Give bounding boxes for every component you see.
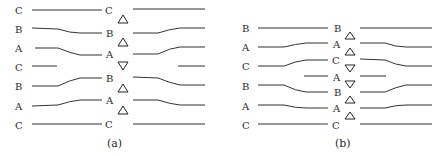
panel-a-layer-line [133, 77, 205, 85]
panel-b-center-label: C [332, 55, 340, 66]
panel-a-layer-line [133, 28, 205, 33]
panel-b-center-label: B [334, 87, 341, 98]
panel-b-left-label: C [242, 61, 250, 72]
panel-a-center-label: C [105, 5, 113, 16]
panel-a-left-label: B [15, 81, 22, 92]
panel-a-left-label: A [14, 101, 23, 112]
triangle-down-icon [345, 81, 355, 88]
triangle-up-icon [118, 38, 128, 46]
panel-b-center-label: C [332, 120, 340, 131]
stacking-sequence-figure: C B A C B A C C B A B A C (a [0, 0, 445, 156]
panel-a-center-label: B [106, 28, 113, 39]
triangle-up-icon [118, 15, 128, 23]
triangle-up-icon [118, 84, 128, 92]
panel-a-center-label: A [105, 49, 114, 60]
panel-a-left-label: C [15, 62, 23, 73]
panel-b-center-label: A [332, 103, 341, 114]
panel-a-caption: (a) [107, 137, 122, 150]
panel-b-left-label: A [241, 42, 250, 53]
triangle-up-icon [345, 112, 355, 119]
panel-b-layer-line [360, 105, 432, 108]
panel-a-left-label: C [15, 5, 23, 16]
triangle-up-icon [345, 48, 355, 55]
panel-b-center-label: A [332, 72, 341, 83]
panel-a-left-label: A [14, 43, 23, 54]
triangle-up-icon [118, 106, 128, 114]
panel-b-left-label: B [242, 23, 249, 34]
triangle-up-icon [345, 32, 355, 39]
panel-b-layer-line [258, 60, 328, 66]
panel-a: C B A C B A C C B A B A C (a [14, 5, 205, 150]
panel-b-left-label: B [242, 81, 249, 92]
panel-a-left-label: B [15, 24, 22, 35]
panel-a-layer-line [32, 78, 102, 86]
panel-a-layer-line [35, 48, 102, 55]
panel-b-left-label: C [242, 120, 250, 131]
panel-b-layer-line [258, 85, 328, 92]
panel-a-layer-line [32, 100, 102, 106]
panel-b-layer-line [258, 43, 328, 47]
panel-a-center-label: B [106, 73, 113, 84]
panel-b-left-label: A [241, 101, 250, 112]
triangle-up-icon [345, 96, 355, 103]
panel-b-layer-line [360, 43, 432, 47]
triangle-down-icon [118, 62, 128, 70]
panel-a-layer-line [133, 47, 205, 54]
panel-b-layer-line [360, 85, 432, 92]
panel-b-center-label: A [332, 39, 341, 50]
panel-a-center-label: A [105, 95, 114, 106]
panel-b-caption: (b) [335, 137, 351, 150]
panel-a-left-label: C [15, 120, 23, 131]
triangle-down-icon [345, 65, 355, 72]
panel-a-layer-line [32, 28, 102, 33]
panel-a-center-label: C [105, 119, 113, 130]
panel-b-layer-line [258, 105, 328, 108]
panel-b: B A C B A C B A C A B A C [241, 23, 432, 150]
panel-b-center-label: B [334, 23, 341, 34]
panel-a-layer-line [133, 100, 205, 105]
panel-b-layer-line [360, 59, 432, 66]
